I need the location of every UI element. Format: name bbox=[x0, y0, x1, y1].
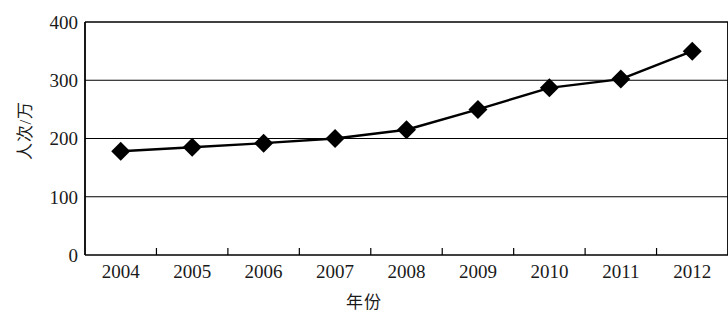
x-tick-label: 2009 bbox=[443, 262, 513, 282]
x-axis-tick-marks bbox=[156, 248, 656, 255]
x-axis-title: 年份 bbox=[334, 288, 394, 312]
data-point-marker bbox=[326, 129, 345, 148]
x-tick-label: 2006 bbox=[229, 262, 299, 282]
data-point-marker bbox=[540, 78, 559, 97]
data-point-marker bbox=[468, 100, 487, 119]
x-tick-label: 2011 bbox=[586, 262, 656, 282]
data-point-marker bbox=[111, 142, 130, 161]
data-point-marker bbox=[254, 134, 273, 153]
x-tick-label: 2004 bbox=[86, 262, 156, 282]
x-tick-label: 2007 bbox=[300, 262, 370, 282]
x-tick-label: 2008 bbox=[372, 262, 442, 282]
x-tick-label: 2005 bbox=[157, 262, 227, 282]
data-point-marker bbox=[611, 70, 630, 89]
data-point-marker bbox=[683, 42, 702, 61]
data-point-marker bbox=[183, 138, 202, 157]
data-point-markers bbox=[111, 42, 702, 161]
data-point-marker bbox=[397, 120, 416, 139]
x-tick-label: 2012 bbox=[657, 262, 727, 282]
line-chart: 人次/万 400 300 200 100 0 20042005200620072… bbox=[0, 0, 728, 312]
x-tick-label: 2010 bbox=[514, 262, 584, 282]
